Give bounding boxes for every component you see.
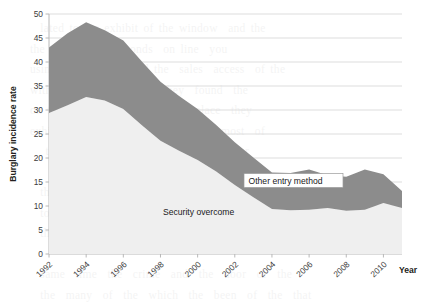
y-tick-label: 0 xyxy=(38,249,43,259)
x-axis-ticks: 1992199419961998200020022004200620082010 xyxy=(34,254,389,279)
x-tick-label: 2010 xyxy=(368,259,389,279)
x-tick-label: 2008 xyxy=(331,259,352,279)
x-tick-label: 2002 xyxy=(220,259,241,279)
y-tick-label: 45 xyxy=(34,33,44,43)
y-tick-label: 5 xyxy=(38,225,43,235)
y-tick-label: 15 xyxy=(34,177,44,187)
y-axis-ticks: 05101520253035404550 xyxy=(34,9,49,259)
y-tick-label: 30 xyxy=(34,105,44,115)
y-axis-title: Burglary incidence rate xyxy=(8,86,18,182)
series-annotation-label: Security overcome xyxy=(163,207,234,217)
y-tick-label: 40 xyxy=(34,57,44,67)
chart-canvas: 05101520253035404550 1992199419961998200… xyxy=(0,0,423,305)
x-tick-label: 2006 xyxy=(294,259,315,279)
y-tick-label: 20 xyxy=(34,153,44,163)
stacked-area-series xyxy=(49,22,402,254)
x-tick-label: 2004 xyxy=(257,259,278,279)
y-tick-label: 10 xyxy=(34,201,44,211)
x-axis-title: Year xyxy=(399,265,418,275)
x-tick-label: 1992 xyxy=(34,259,55,279)
x-tick-label: 1996 xyxy=(108,259,129,279)
burglary-incidence-area-chart: lated to the exhibit of the window and t… xyxy=(0,0,423,305)
x-tick-label: 2000 xyxy=(183,259,204,279)
y-tick-label: 35 xyxy=(34,81,44,91)
y-tick-label: 25 xyxy=(34,129,44,139)
x-tick-label: 1998 xyxy=(145,259,166,279)
x-tick-label: 1994 xyxy=(71,259,92,279)
series-annotation-label: Other entry method xyxy=(249,176,323,186)
y-tick-label: 50 xyxy=(34,9,44,19)
